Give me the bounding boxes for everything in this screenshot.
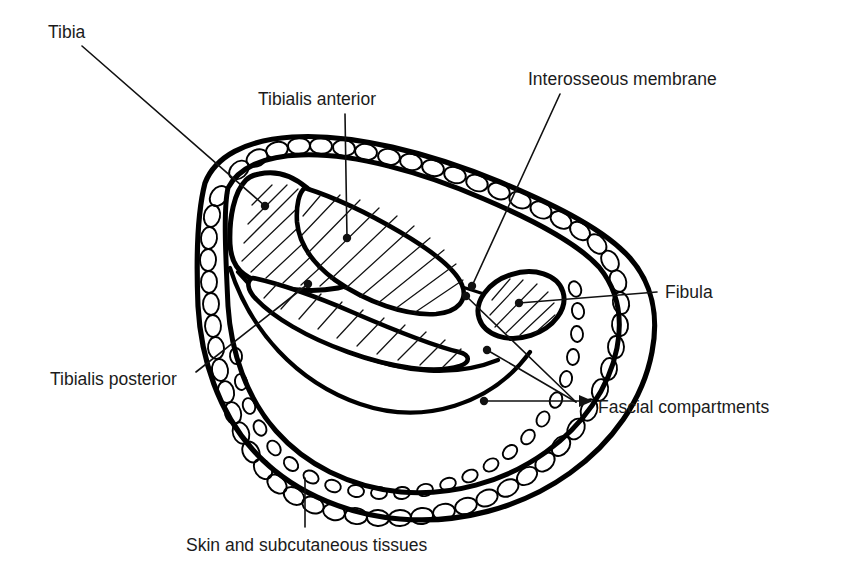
label-tibia: Tibia <box>48 22 86 42</box>
label-skin-and-subcutaneous-tissues: Skin and subcutaneous tissues <box>186 535 428 555</box>
leader-dot-interosseous-membrane <box>468 282 476 290</box>
label-fascial-compartments: Fascial compartments <box>598 397 769 417</box>
leader-tibia <box>82 46 269 210</box>
cross-section-illustration: Tibia Tibialis anterior Interosseous mem… <box>0 0 844 573</box>
label-tibialis-posterior: Tibialis posterior <box>50 369 177 389</box>
label-fibula: Fibula <box>665 282 713 302</box>
leader-dot-fibula <box>515 299 523 307</box>
leader-dot-fascia-b <box>483 346 491 354</box>
tibialis-anterior-muscle <box>297 188 464 314</box>
leader-dot-tibialis-anterior <box>343 234 351 242</box>
label-interosseous-membrane: Interosseous membrane <box>528 69 717 89</box>
leader-dot-fascia-c <box>462 292 470 300</box>
label-tibialis-anterior: Tibialis anterior <box>258 89 376 109</box>
leader-dot-tibia <box>261 202 269 210</box>
tibialis-anterior-outline <box>297 188 464 314</box>
leader-dot-tibialis-posterior <box>304 280 312 288</box>
anatomy-figure: Tibia Tibialis anterior Interosseous mem… <box>0 0 844 573</box>
leader-dot-fascial-compartments <box>480 397 488 405</box>
